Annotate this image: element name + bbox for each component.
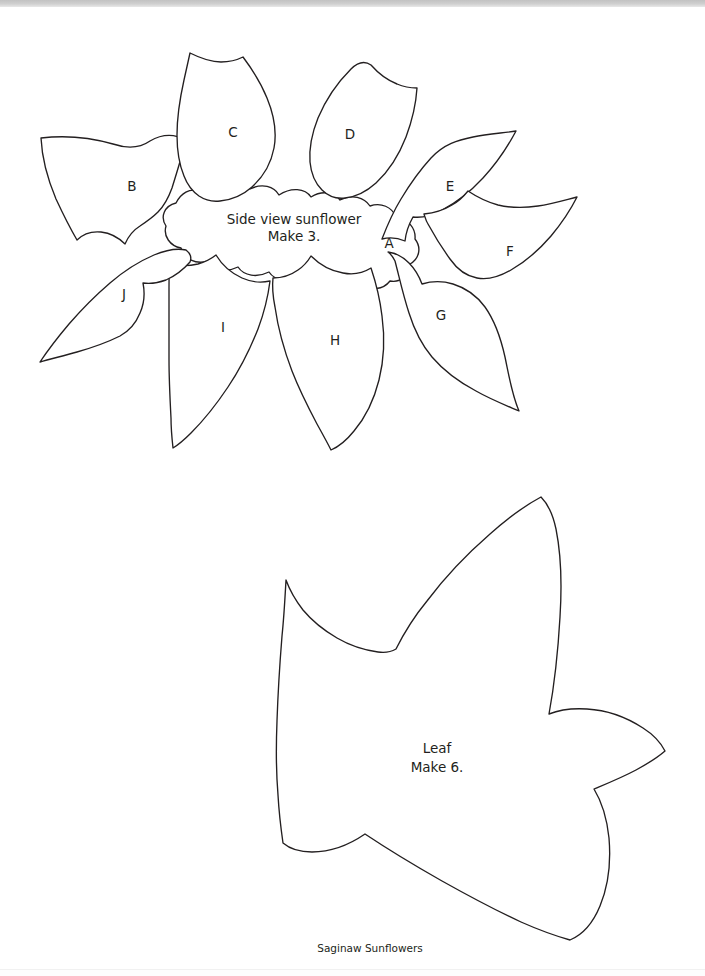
- petal-shape-C: [177, 53, 275, 201]
- petal-label-A: A: [384, 235, 394, 251]
- petal-shape-D: [310, 62, 417, 198]
- footer-credit: Saginaw Sunflowers: [317, 942, 423, 954]
- petal-label-D: D: [345, 126, 355, 142]
- petal-label-B: B: [127, 178, 136, 194]
- petal-label-C: C: [228, 124, 237, 140]
- petal-label-H: H: [330, 332, 340, 348]
- leaf-label-line2: Make 6.: [411, 759, 464, 775]
- sunflower-title-line2: Make 3.: [268, 228, 321, 244]
- document-page: Side view sunflower Make 3. A B C D E F …: [0, 7, 705, 969]
- petal-label-G: G: [436, 307, 446, 323]
- petal-label-E: E: [446, 178, 455, 194]
- leaf-shape: [276, 497, 665, 940]
- viewer-top-bar: [0, 0, 705, 7]
- petal-label-I: I: [221, 319, 225, 335]
- petal-label-F: F: [506, 243, 514, 259]
- petal-shape-B: [41, 136, 186, 244]
- horizontal-scrollbar-track[interactable]: [0, 969, 705, 976]
- petal-shape-I: [169, 255, 270, 448]
- sunflower-title-line1: Side view sunflower: [227, 211, 362, 227]
- pattern-drawing: Side view sunflower Make 3. A B C D E F …: [0, 7, 705, 969]
- petal-shape-J: [40, 249, 191, 362]
- leaf-label-line1: Leaf: [423, 740, 453, 756]
- petal-shape-H: [273, 256, 384, 450]
- petal-label-J: J: [121, 286, 126, 302]
- document-viewer[interactable]: Side view sunflower Make 3. A B C D E F …: [0, 0, 705, 976]
